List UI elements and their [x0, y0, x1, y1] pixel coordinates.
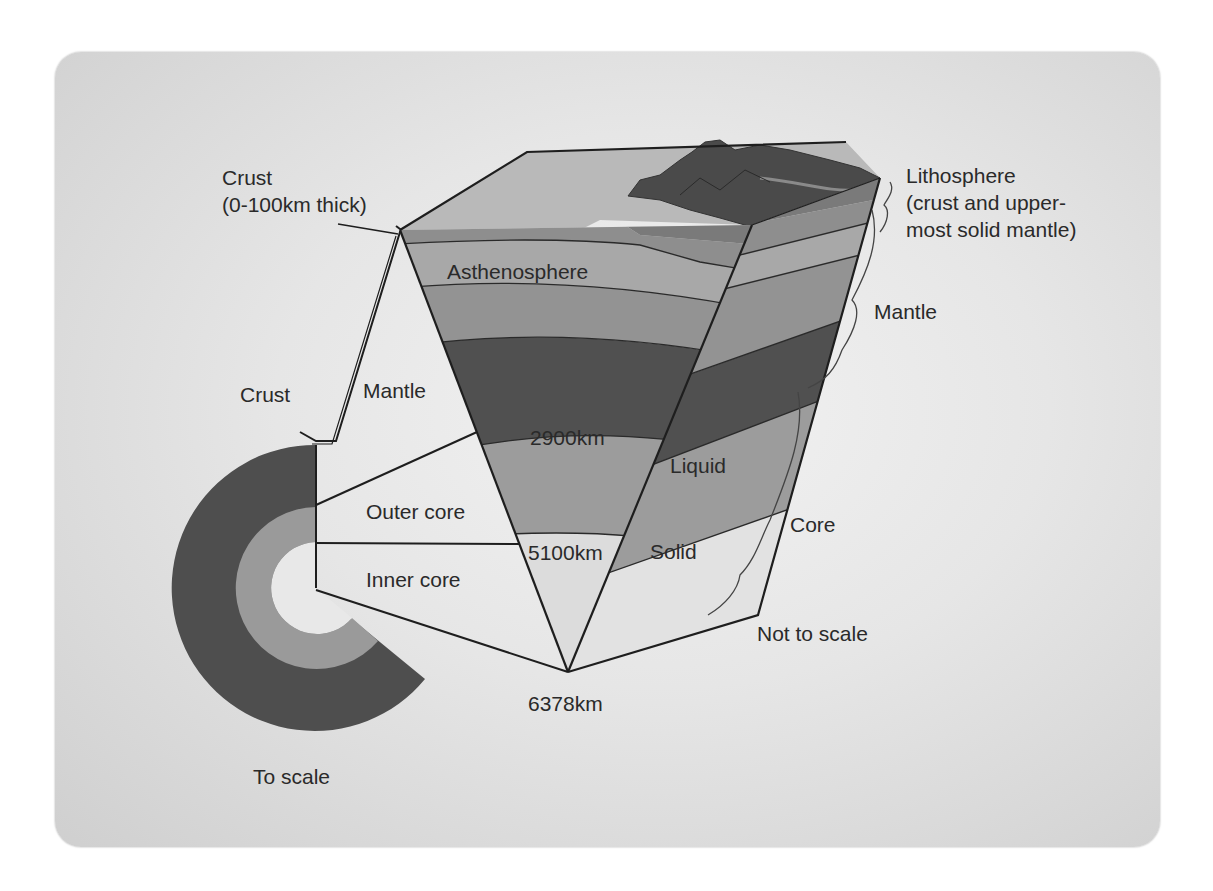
- crust-label-line1: Crust: [222, 164, 272, 191]
- lithosphere-brace: [880, 182, 892, 232]
- not-to-scale-label: Not to scale: [757, 620, 868, 647]
- earth-structure-diagram: [0, 0, 1213, 891]
- lithosphere-label-line3: most solid mantle): [906, 216, 1076, 243]
- mantle-left-label: Mantle: [363, 377, 426, 404]
- crust-label-line2: (0-100km thick): [222, 191, 367, 218]
- inner-core-label: Inner core: [366, 566, 461, 593]
- solid-label: Solid: [650, 538, 697, 565]
- diagram-stage: Crust (0-100km thick) Lithosphere (crust…: [0, 0, 1213, 891]
- core-label: Core: [790, 511, 836, 538]
- lithosphere-label-line2: (crust and upper-: [906, 189, 1066, 216]
- depth-2900-label: 2900km: [530, 424, 605, 451]
- to-scale-label: To scale: [253, 763, 330, 790]
- earth-block: [380, 140, 900, 690]
- depth-5100-label: 5100km: [528, 539, 603, 566]
- crust-left-label: Crust: [240, 381, 290, 408]
- liquid-label: Liquid: [670, 452, 726, 479]
- asthenosphere-label: Asthenosphere: [447, 258, 588, 285]
- depth-6378-label: 6378km: [528, 690, 603, 717]
- lithosphere-label-line1: Lithosphere: [906, 162, 1016, 189]
- mantle-right-label: Mantle: [874, 298, 937, 325]
- outer-core-label: Outer core: [366, 498, 465, 525]
